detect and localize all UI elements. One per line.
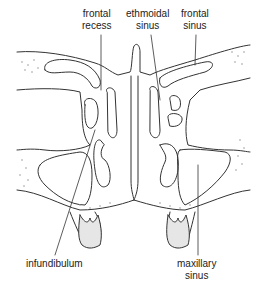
right-middle-turbinate bbox=[160, 144, 178, 187]
left-ethmoid-cell-1 bbox=[84, 98, 98, 128]
nasal-septum-right bbox=[134, 76, 138, 200]
label-line: ethmoidal bbox=[126, 8, 169, 20]
left-middle-turbinate bbox=[94, 140, 110, 187]
right-ethmoid-cell-2 bbox=[168, 114, 182, 127]
palate bbox=[17, 190, 250, 210]
label-line: frontal bbox=[82, 8, 111, 20]
right-tooth bbox=[167, 215, 190, 248]
right-ethmoid-cell-1 bbox=[170, 96, 181, 111]
sinus-diagram bbox=[0, 0, 267, 294]
label-line: recess bbox=[82, 20, 111, 32]
bone-texture-dots bbox=[19, 51, 245, 209]
label-frontal-recess: frontal recess bbox=[82, 8, 111, 32]
label-frontal-sinus: frontal sinus bbox=[181, 8, 209, 32]
label-ethmoidal-sinus: ethmoidal sinus bbox=[126, 8, 169, 32]
label-maxillary-sinus: maxillary sinus bbox=[177, 258, 216, 282]
label-line: sinus bbox=[181, 20, 209, 32]
leader-ethmoidal-sinus bbox=[151, 35, 160, 100]
left-maxillary-sinus bbox=[38, 152, 92, 205]
label-infundibulum: infundibulum bbox=[26, 258, 83, 270]
label-line: maxillary bbox=[177, 258, 216, 270]
leader-frontal-sinus bbox=[195, 35, 196, 65]
label-line: frontal bbox=[181, 8, 209, 20]
left-ethmoid-cell-2 bbox=[106, 88, 117, 138]
label-line: sinus bbox=[177, 270, 216, 282]
skull-outline-lower-right bbox=[186, 78, 250, 152]
skull-outline-lower-left bbox=[17, 89, 90, 151]
right-frontal-sinus bbox=[159, 62, 212, 88]
right-ethmoid-cell-3 bbox=[150, 87, 160, 138]
skull-outline-left bbox=[17, 44, 250, 75]
label-line: infundibulum bbox=[26, 258, 83, 270]
left-orbit-upper bbox=[45, 59, 101, 88]
right-maxillary-sinus bbox=[178, 149, 231, 205]
left-tooth bbox=[79, 215, 102, 248]
nasal-septum bbox=[131, 76, 134, 200]
label-line: sinus bbox=[126, 20, 169, 32]
